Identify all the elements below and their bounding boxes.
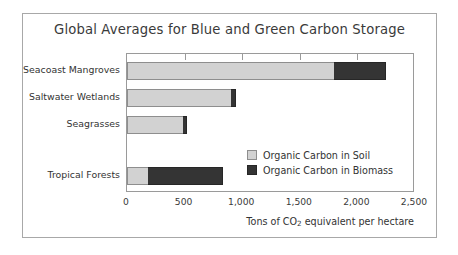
bar-segment-soil — [127, 62, 334, 80]
legend-swatch-biomass — [247, 165, 257, 175]
y-axis-label-tropical-forests: Tropical Forests — [0, 169, 120, 180]
bar-segment-biomass — [334, 62, 386, 80]
chart-figure: Global Averages for Blue and Green Carbo… — [0, 0, 458, 255]
y-axis-label-saltwater-wetlands: Saltwater Wetlands — [0, 91, 120, 102]
legend-swatch-soil — [247, 150, 257, 160]
bar-segment-soil — [127, 116, 183, 134]
x-tick-1,000 — [242, 54, 243, 60]
legend-item-soil: Organic Carbon in Soil — [247, 148, 393, 162]
legend-item-biomass: Organic Carbon in Biomass — [247, 163, 393, 177]
x-axis-label-0: 0 — [123, 196, 129, 207]
bar-tropical-forests — [127, 167, 223, 185]
bar-seagrasses — [127, 116, 187, 134]
bar-segment-soil — [127, 89, 231, 107]
chart-title: Global Averages for Blue and Green Carbo… — [22, 22, 437, 37]
x-axis-label-2000: 2,000 — [343, 196, 369, 207]
bar-segment-biomass — [231, 89, 237, 107]
y-axis-label-seacoast-mangroves: Seacoast Mangroves — [0, 64, 120, 75]
bar-saltwater-wetlands — [127, 89, 236, 107]
x-axis-label-1000: 1,000 — [228, 196, 254, 207]
x-tick-1,500 — [300, 54, 301, 60]
legend-label: Organic Carbon in Biomass — [263, 165, 393, 176]
bar-seacoast-mangroves — [127, 62, 386, 80]
x-axis-label-1500: 1,500 — [286, 196, 312, 207]
co2-subscript: 2 — [297, 219, 302, 228]
x-tick-2,000 — [357, 54, 358, 60]
legend-label: Organic Carbon in Soil — [263, 150, 370, 161]
bar-segment-biomass — [183, 116, 186, 134]
bar-segment-biomass — [148, 167, 223, 185]
x-axis-title: Tons of CO2 equivalent per hectare — [246, 216, 414, 228]
x-axis-label-2500: 2,500 — [401, 196, 427, 207]
x-tick-500 — [185, 54, 186, 60]
y-axis-label-seagrasses: Seagrasses — [0, 118, 120, 129]
chart-legend: Organic Carbon in SoilOrganic Carbon in … — [247, 148, 393, 178]
x-axis-label-500: 500 — [175, 196, 193, 207]
bar-segment-soil — [127, 167, 148, 185]
